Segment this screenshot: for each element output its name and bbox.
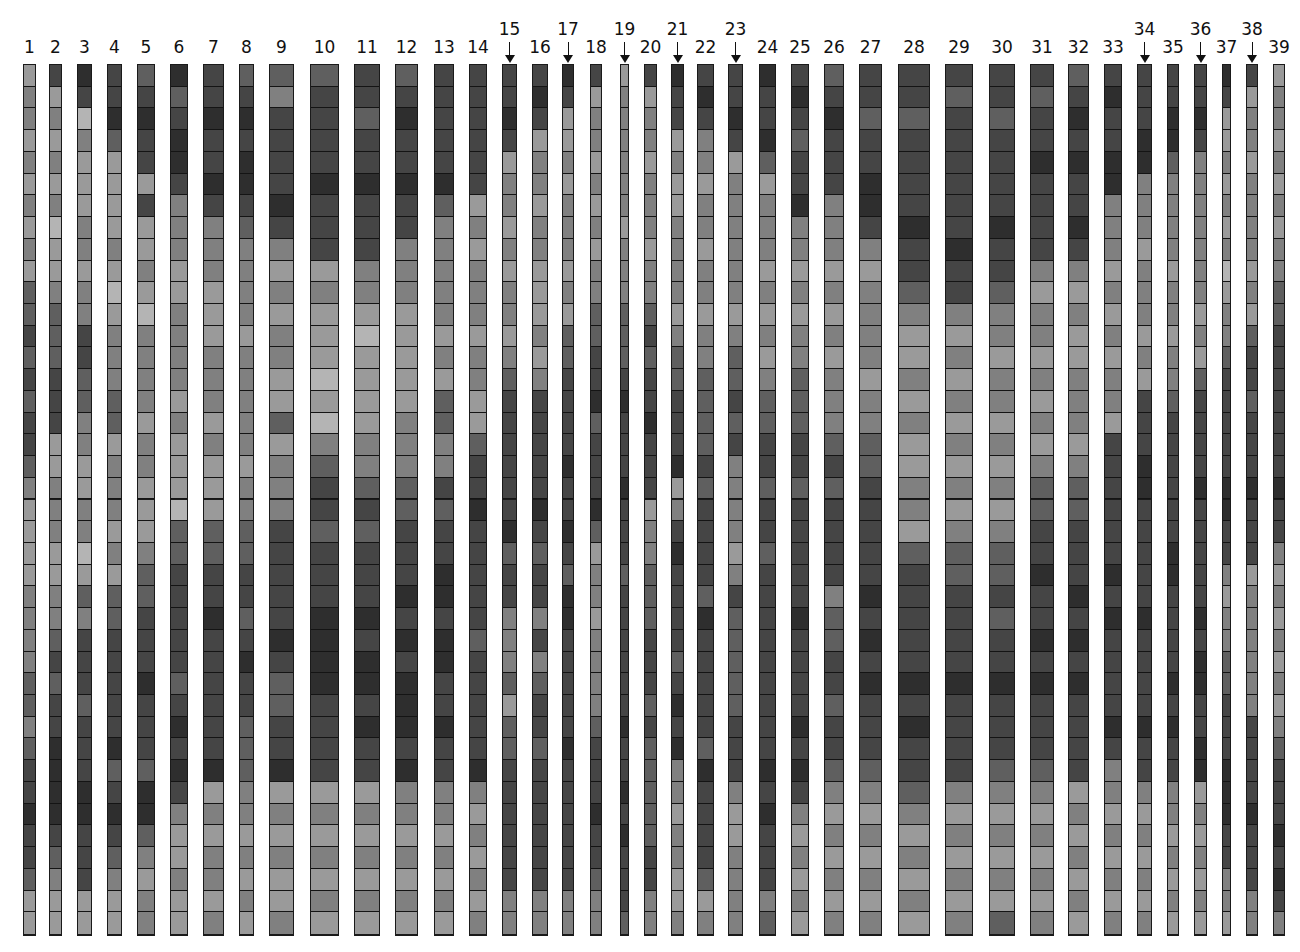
column-cell: [1138, 695, 1151, 717]
column-cell: [760, 152, 775, 174]
column-label: 14: [467, 39, 489, 56]
column-cell: [645, 413, 656, 435]
column-label: 29: [948, 39, 970, 56]
column-cell: [533, 521, 547, 543]
column-cell: [1031, 869, 1053, 891]
column-cell: [240, 195, 253, 217]
column-cell: [470, 673, 486, 695]
column-35: [1167, 64, 1179, 936]
column-cell: [792, 130, 808, 152]
column-cell: [108, 847, 121, 869]
column-cell: [1247, 630, 1257, 652]
column-cell: [729, 869, 742, 891]
column-cell: [563, 391, 573, 413]
column-cell: [311, 630, 338, 652]
column-label: 18: [585, 39, 607, 56]
column-cell: [435, 804, 453, 826]
column-cell: [1138, 804, 1151, 826]
column-cell: [503, 261, 516, 283]
column-cell: [533, 891, 547, 913]
column-cell: [204, 630, 223, 652]
column-cell: [470, 847, 486, 869]
column-cell: [270, 195, 293, 217]
column-cell: [311, 565, 338, 587]
column-cell: [396, 239, 417, 261]
column-cell: [470, 782, 486, 804]
column-cell: [563, 152, 573, 174]
column-cell: [1195, 239, 1206, 261]
column-cell: [899, 195, 929, 217]
column-cell: [503, 391, 516, 413]
column-cell: [760, 825, 775, 847]
column-cell: [792, 174, 808, 196]
column-cell: [1105, 87, 1121, 109]
column-label: 15: [499, 21, 521, 38]
column-cell: [435, 912, 453, 934]
column-cell: [355, 912, 379, 934]
column-cell: [138, 630, 154, 652]
column-cell: [729, 608, 742, 630]
column-cell: [171, 630, 187, 652]
column-cell: [825, 434, 843, 456]
column-36: [1194, 64, 1207, 936]
column-cell: [1274, 130, 1284, 152]
column-cell: [470, 217, 486, 239]
column-cell: [645, 391, 656, 413]
column-cell: [563, 912, 573, 934]
column-cell: [396, 738, 417, 760]
column-label: 32: [1068, 39, 1090, 56]
column-cell: [204, 782, 223, 804]
column-cell: [396, 543, 417, 565]
column-cell: [1031, 652, 1053, 674]
column-cell: [672, 456, 683, 478]
column-cell: [729, 565, 742, 587]
column-cell: [672, 174, 683, 196]
column-cell: [108, 239, 121, 261]
column-label: 13: [433, 39, 455, 56]
column-cell: [1069, 543, 1088, 565]
column-cell: [138, 434, 154, 456]
column-cell: [591, 130, 601, 152]
column-cell: [792, 608, 808, 630]
column-cell: [792, 500, 808, 522]
column-cell: [990, 434, 1014, 456]
column-cell: [729, 630, 742, 652]
column-cell: [1105, 695, 1121, 717]
column-cell: [311, 195, 338, 217]
column-cell: [533, 760, 547, 782]
column-cell: [825, 543, 843, 565]
column-cell: [1247, 347, 1257, 369]
column-cell: [621, 760, 628, 782]
column-cell: [729, 369, 742, 391]
column-cell: [1138, 261, 1151, 283]
column-cell: [108, 521, 121, 543]
column-cell: [270, 65, 293, 87]
column-cell: [138, 782, 154, 804]
column-cell: [792, 869, 808, 891]
column-cell: [672, 239, 683, 261]
column-cell: [435, 108, 453, 130]
column-cell: [50, 347, 61, 369]
column-cell: [621, 891, 628, 913]
column-cell: [760, 804, 775, 826]
column-cell: [204, 673, 223, 695]
column-cell: [946, 130, 972, 152]
column-cell: [270, 130, 293, 152]
column-cell: [50, 391, 61, 413]
column-cell: [591, 326, 601, 348]
column-cell: [729, 912, 742, 934]
column-cell: [1105, 413, 1121, 435]
column-cell: [270, 217, 293, 239]
column-cell: [240, 434, 253, 456]
column-cell: [990, 521, 1014, 543]
column-cell: [503, 825, 516, 847]
column-cell: [355, 869, 379, 891]
column-cell: [1069, 174, 1088, 196]
column-cell: [1223, 304, 1230, 326]
column-13: [434, 64, 454, 936]
column-cell: [470, 891, 486, 913]
column-cell: [946, 565, 972, 587]
column-cell: [108, 912, 121, 934]
column-cell: [825, 912, 843, 934]
column-cell: [672, 391, 683, 413]
